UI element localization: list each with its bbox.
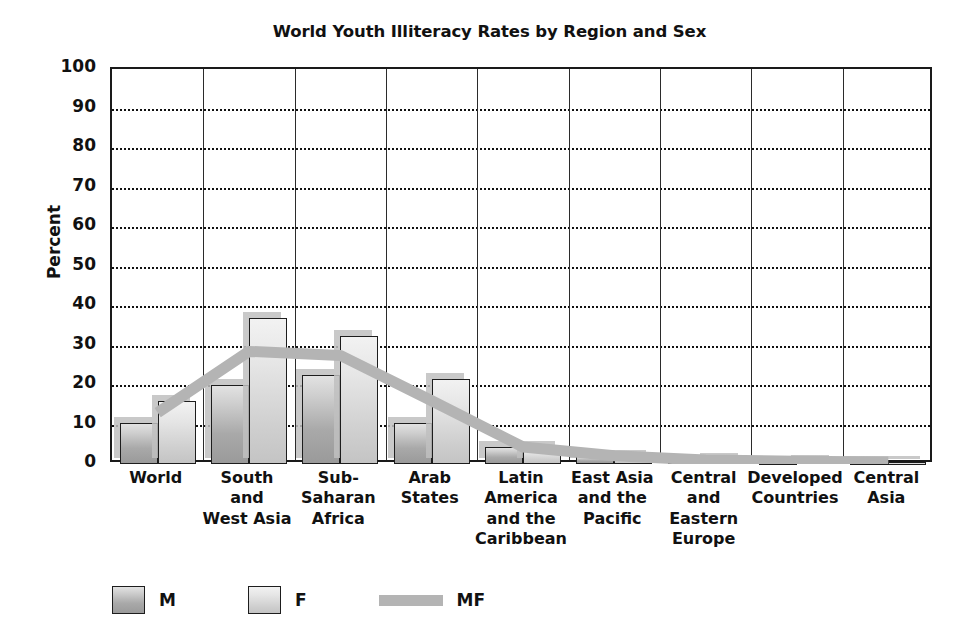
x-category-label-line: States [378,488,481,508]
gridline [112,109,930,111]
legend-item-m: M [112,586,176,614]
legend-label-f: F [295,590,307,610]
y-tick-label: 100 [10,58,96,75]
bar-shadow [753,456,791,459]
line-swatch-mf-icon [379,595,443,606]
gridline [112,148,930,150]
bar-swatch-m-icon [112,586,145,614]
bar-f [158,401,196,464]
y-tick-label: 60 [10,216,96,233]
gridline [112,188,930,190]
x-category-label-line: Europe [652,529,755,549]
gridline [112,346,930,348]
x-category-label-line: Asia [835,488,938,508]
bar-shadow [700,453,738,458]
x-category-label-line: World [104,468,207,488]
bar-f [523,447,561,464]
category-separator [569,69,570,460]
x-category-label: ArabStates [378,468,481,509]
bar-shadow [662,455,700,458]
x-category-label-line: Developed [743,468,846,488]
bar-f [706,459,744,464]
gridline [112,267,930,269]
plot-area [110,67,932,462]
bar-f [340,336,378,464]
x-category-label-line: Countries [743,488,846,508]
bar-m [850,462,888,465]
gridline [112,227,930,229]
legend-label-m: M [159,590,176,610]
x-category-label-line: Central [652,468,755,488]
bar-f [614,456,652,464]
category-separator [843,69,844,460]
x-category-label-line: Latin [469,468,572,488]
bar-f [888,462,926,465]
bar-f [797,461,835,464]
x-category-label: CentralandEasternEurope [652,468,755,550]
bar-shadow [882,456,920,459]
y-tick-label: 80 [10,137,96,154]
x-category-label: World [104,468,207,488]
category-separator [660,69,661,460]
category-separator [386,69,387,460]
x-category-label-line: Caribbean [469,529,572,549]
y-tick-label: 50 [10,256,96,273]
y-tick-label: 90 [10,98,96,115]
bar-m [668,461,706,464]
x-category-label-line: and the [561,488,664,508]
y-tick-label: 40 [10,295,96,312]
y-tick-label: 30 [10,335,96,352]
legend-label-mf: MF [457,590,486,610]
bar-swatch-f-icon [248,586,281,614]
x-category-label: LatinAmericaand theCaribbean [469,468,572,550]
x-category-label: Sub-SaharanAfrica [287,468,390,529]
category-separator [477,69,478,460]
x-category-label-line: East Asia [561,468,664,488]
x-category-label: East Asiaand thePacific [561,468,664,529]
x-category-label-line: Africa [287,509,390,529]
y-tick-label: 0 [10,453,96,470]
x-category-label: SouthandWest Asia [195,468,298,529]
x-category-label-line: and [652,488,755,508]
bar-shadow [791,455,829,458]
x-category-label-line: and the [469,509,572,529]
x-category-label-line: Eastern [652,509,755,529]
x-category-label-line: Central [835,468,938,488]
x-category-label-line: South [195,468,298,488]
x-axis-category-labels: WorldSouthandWest AsiaSub-SaharanAfricaA… [110,468,932,578]
legend-item-mf: MF [379,590,486,610]
x-category-label-line: Saharan [287,488,390,508]
x-category-label-line: Pacific [561,509,664,529]
y-tick-label: 70 [10,177,96,194]
y-axis-label: Percent [44,182,64,302]
y-tick-label: 10 [10,414,96,431]
x-category-label-line: Arab [378,468,481,488]
x-category-label: DevelopedCountries [743,468,846,509]
chart-container: World Youth Illiteracy Rates by Region a… [0,0,979,643]
chart-legend: M F MF [112,583,485,617]
x-category-label: CentralAsia [835,468,938,509]
chart-title: World Youth Illiteracy Rates by Region a… [0,22,979,41]
bar-f [249,318,287,464]
category-separator [751,69,752,460]
bar-f [432,379,470,464]
gridline [112,306,930,308]
x-category-label-line: America [469,488,572,508]
y-tick-label: 20 [10,374,96,391]
bar-m [759,462,797,465]
bar-shadow [844,456,882,459]
x-category-label-line: and [195,488,298,508]
x-category-label-line: West Asia [195,509,298,529]
x-category-label-line: Sub- [287,468,390,488]
plot-inner [112,69,930,460]
legend-item-f: F [248,586,307,614]
